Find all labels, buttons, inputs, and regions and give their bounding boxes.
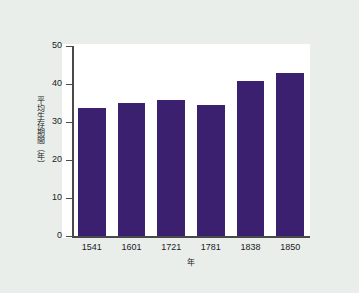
x-axis-tick-label: 1601: [112, 242, 152, 252]
bar[interactable]: [157, 100, 185, 236]
x-axis-tick-label: 1850: [270, 242, 310, 252]
y-axis-tick-label: 40: [40, 79, 62, 88]
bar-slot: [72, 46, 112, 236]
y-axis-tick-label: 50: [40, 41, 62, 50]
bar-slot: [270, 46, 310, 236]
bar[interactable]: [118, 103, 146, 236]
y-axis-tick-label: 0: [40, 231, 62, 240]
bar[interactable]: [237, 81, 265, 236]
y-axis-tick: [66, 236, 72, 237]
x-axis-tick-label: 1721: [151, 242, 191, 252]
x-axis-line: [72, 236, 310, 238]
bar-slot: [191, 46, 231, 236]
x-axis-title: 年: [72, 256, 310, 267]
y-axis-tick-label: 10: [40, 193, 62, 202]
bar[interactable]: [276, 73, 304, 236]
bar[interactable]: [197, 105, 225, 236]
bar-slot: [231, 46, 271, 236]
bar[interactable]: [78, 108, 106, 236]
bar-series: [72, 46, 310, 236]
bar-slot: [112, 46, 152, 236]
x-axis-tick-label: 1541: [72, 242, 112, 252]
y-axis-title: 平均生存期間（年）: [30, 96, 44, 168]
chart-figure: 01020304050 平均生存期間（年） 154116011721178118…: [0, 0, 359, 293]
x-axis-tick-label: 1781: [191, 242, 231, 252]
x-axis-tick-label: 1838: [231, 242, 271, 252]
bar-slot: [151, 46, 191, 236]
